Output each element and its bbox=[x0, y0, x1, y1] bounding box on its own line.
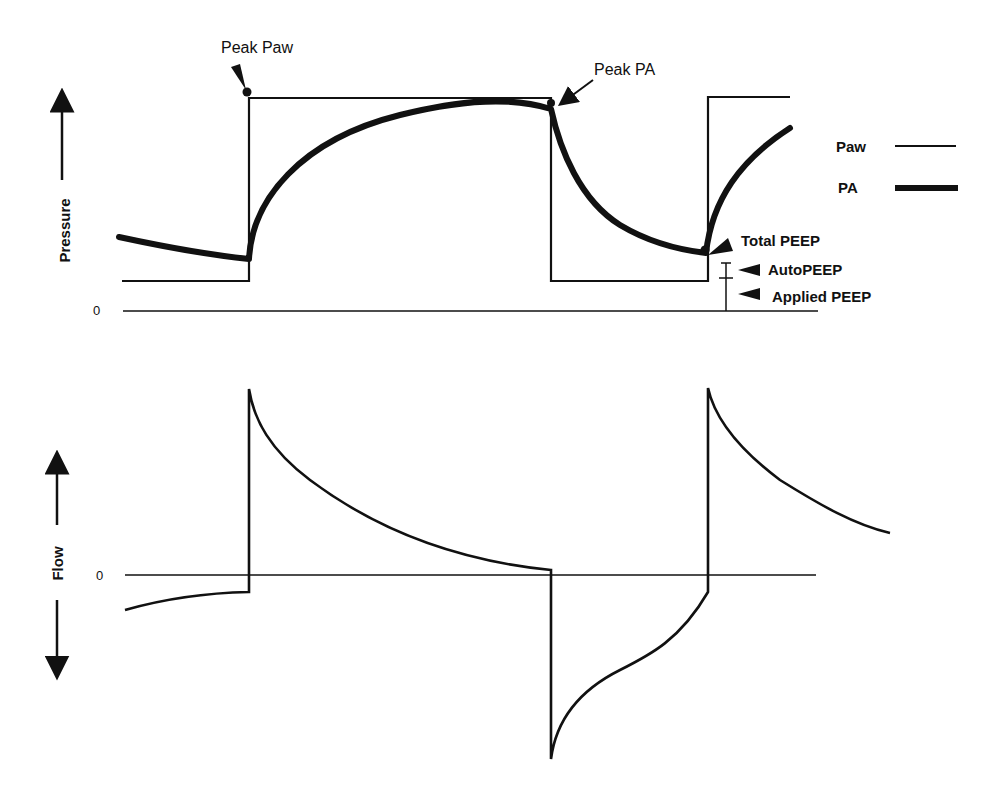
ventilator-waveform-diagram bbox=[0, 0, 994, 786]
legend-pa-label: PA bbox=[838, 180, 858, 195]
applied-peep-pointer-icon bbox=[738, 288, 760, 300]
peak-pa-arrow-icon bbox=[566, 80, 593, 100]
peak-paw-pointer-icon bbox=[231, 64, 246, 90]
total-peep-marker bbox=[701, 246, 710, 255]
auto-peep-pointer-icon bbox=[738, 264, 760, 276]
flow-axis-label: Flow bbox=[49, 538, 66, 590]
peep-bracket bbox=[719, 263, 733, 311]
peak-pa-marker bbox=[547, 99, 555, 107]
pressure-zero-label: 0 bbox=[93, 303, 100, 318]
total-peep-pointer-icon bbox=[708, 238, 733, 255]
flow-waveform bbox=[125, 388, 890, 759]
legend-paw-label: Paw bbox=[836, 139, 866, 154]
peak-paw-label: Peak Paw bbox=[221, 40, 293, 56]
peak-pa-label: Peak PA bbox=[594, 62, 655, 78]
flow-zero-label: 0 bbox=[96, 568, 103, 583]
total-peep-label: Total PEEP bbox=[741, 233, 820, 248]
peak-paw-marker bbox=[243, 88, 252, 97]
pa-waveform bbox=[119, 101, 790, 259]
pressure-axis-label: Pressure bbox=[56, 191, 73, 271]
auto-peep-label: AutoPEEP bbox=[768, 262, 842, 277]
applied-peep-label: Applied PEEP bbox=[772, 289, 871, 304]
